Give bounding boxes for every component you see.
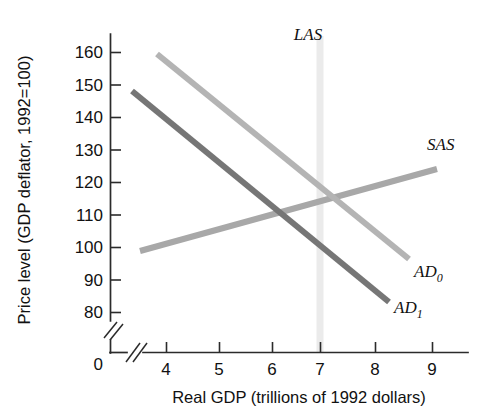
y-tick-label-150: 150 <box>75 76 103 95</box>
y-tick-label-140: 140 <box>75 108 103 127</box>
x-tick-label-5: 5 <box>214 360 223 379</box>
y-axis-title: Price level (GDP deflator, 1992=100) <box>15 56 33 325</box>
y-tick-label-120: 120 <box>75 173 103 192</box>
y-tick-label-130: 130 <box>75 141 103 160</box>
y-tick-label-160: 160 <box>75 43 103 62</box>
chart-svg: 160 150 140 130 120 110 100 90 80 0 4 5 … <box>0 0 491 419</box>
x-axis-title: Real GDP (trillions of 1992 dollars) <box>172 388 426 406</box>
x-tick-label-8: 8 <box>370 360 379 379</box>
x-tick-label-7: 7 <box>315 360 324 379</box>
curve-label-las: LAS <box>293 25 323 44</box>
origin-label-zero: 0 <box>94 355 103 374</box>
y-tick-label-90: 90 <box>84 271 103 290</box>
x-tick-label-6: 6 <box>267 360 276 379</box>
curve-label-ad1-sub: 1 <box>417 307 423 321</box>
y-tick-label-100: 100 <box>75 238 103 257</box>
y-ticks <box>110 53 121 313</box>
curve-ad1 <box>132 91 389 302</box>
as-ad-chart-figure: 160 150 140 130 120 110 100 90 80 0 4 5 … <box>0 0 491 419</box>
y-tick-label-110: 110 <box>76 206 103 225</box>
curve-label-ad0-base: AD <box>413 262 437 281</box>
y-tick-label-80: 80 <box>84 303 103 322</box>
curve-ad0 <box>157 54 409 259</box>
curve-label-ad1-base: AD <box>393 298 417 317</box>
curve-label-sas: SAS <box>427 135 455 154</box>
x-tick-label-4: 4 <box>161 360 170 379</box>
x-tick-label-9: 9 <box>427 360 436 379</box>
curve-label-ad1: AD1 <box>393 298 423 321</box>
curve-label-ad0-sub: 0 <box>437 271 443 285</box>
y-axis-break-mark <box>104 322 123 340</box>
x-ticks <box>167 342 433 352</box>
curve-sas <box>140 169 437 251</box>
curve-label-ad0: AD0 <box>413 262 443 285</box>
